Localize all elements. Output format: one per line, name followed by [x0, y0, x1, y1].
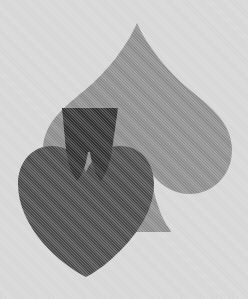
card-suits-illustration: [0, 0, 248, 299]
artboard: [0, 0, 248, 299]
